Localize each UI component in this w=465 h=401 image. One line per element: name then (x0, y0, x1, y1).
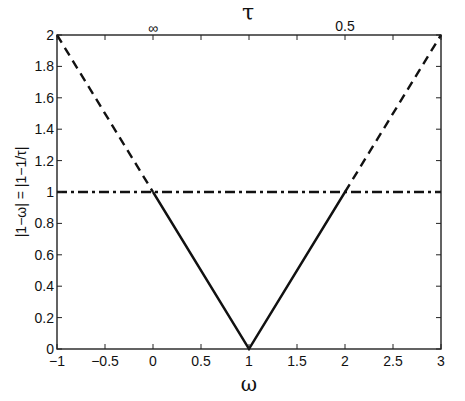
series-right-dashed (345, 35, 441, 192)
series-left-dashed (57, 35, 153, 192)
x-tick-label: 3 (437, 353, 445, 369)
y-tick-label: 1.2 (35, 153, 55, 169)
y-tick-label: 0 (46, 341, 54, 357)
top-axis-annotation: ∞ (148, 20, 158, 36)
series-solid-v (153, 192, 345, 349)
y-tick-label: 1.8 (35, 58, 55, 74)
x-tick-label: −0.5 (91, 353, 119, 369)
y-tick-label: 0.4 (35, 278, 55, 294)
x-tick-label: 1 (245, 353, 253, 369)
y-tick-label: 1 (46, 184, 54, 200)
y-tick-label: 1.4 (35, 121, 55, 137)
x-tick-label: 2 (341, 353, 349, 369)
top-axis-title: τ (242, 0, 254, 25)
y-tick-label: 0.8 (35, 215, 55, 231)
x-tick-label: 1.5 (287, 353, 307, 369)
x-tick-label: 0.5 (191, 353, 211, 369)
x-axis-title: ω (241, 372, 257, 396)
y-tick-label: 0.6 (35, 247, 55, 263)
top-axis-annotation: 0.5 (335, 18, 355, 34)
y-tick-label: 2 (46, 27, 54, 43)
x-tick-label: 0 (149, 353, 157, 369)
y-tick-label: 1.6 (35, 90, 55, 106)
chart: −1−0.500.511.522.5300.20.40.60.811.21.41… (0, 0, 465, 401)
x-tick-label: 2.5 (383, 353, 403, 369)
y-tick-label: 0.2 (35, 310, 55, 326)
series-group (57, 35, 441, 349)
y-axis-title: |1−ω| = |1−1/τ| (13, 147, 29, 238)
tick-group: −1−0.500.511.522.5300.20.40.60.811.21.41… (35, 18, 446, 369)
